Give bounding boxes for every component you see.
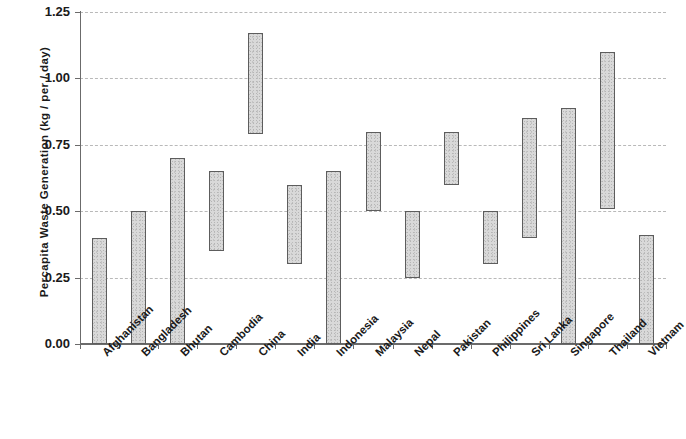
- y-tick-mark: [75, 78, 81, 79]
- bar-thailand: [600, 52, 615, 209]
- bar-sri-lanka: [522, 118, 537, 238]
- gridline-1.25: [80, 12, 666, 13]
- bar-philippines: [483, 211, 498, 264]
- bar-indonesia: [326, 171, 341, 344]
- gridline-1.00: [80, 78, 666, 79]
- bar-afghanistan: [92, 238, 107, 344]
- y-tick-label: 1.00: [26, 70, 70, 85]
- y-tick-mark: [75, 211, 81, 212]
- x-tick-labels-group: AfghanistanBangladeshBhutanCambodiaChina…: [80, 346, 666, 439]
- y-tick-label: 0.00: [26, 336, 70, 351]
- bar-nepal: [405, 211, 420, 277]
- y-tick-mark: [75, 145, 81, 146]
- bar-china: [248, 33, 263, 134]
- bar-pakistan: [444, 132, 459, 185]
- y-tick-mark: [75, 278, 81, 279]
- bar-india: [287, 185, 302, 265]
- y-axis-line: [80, 11, 81, 345]
- bar-singapore: [561, 108, 576, 344]
- y-tick-label: 0.50: [26, 203, 70, 218]
- y-tick-mark: [75, 12, 81, 13]
- gridline-0.25: [80, 278, 666, 279]
- y-tick-label: 0.75: [26, 137, 70, 152]
- gridline-0.50: [80, 211, 666, 212]
- y-axis-title: Percapita Waste Generation (kg / per / d…: [38, 2, 50, 342]
- y-tick-label: 1.25: [26, 4, 70, 19]
- bar-malaysia: [366, 132, 381, 212]
- plot-frame: [80, 12, 666, 344]
- plot-area: [80, 12, 666, 344]
- bar-cambodia: [209, 171, 224, 251]
- y-tick-label: 0.25: [26, 270, 70, 285]
